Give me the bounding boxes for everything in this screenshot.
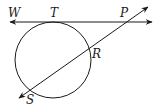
label-r: R — [91, 47, 101, 61]
label-w: W — [8, 6, 22, 20]
geometry-diagram: W T P R S — [0, 0, 159, 106]
label-s: S — [26, 93, 34, 106]
label-p: P — [119, 6, 129, 20]
circle — [15, 22, 91, 98]
label-t: T — [50, 6, 59, 20]
secant-line-sp — [19, 7, 148, 98]
